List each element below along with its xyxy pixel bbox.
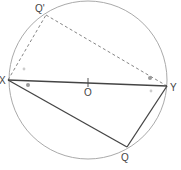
segment-q-y [127, 86, 167, 147]
label-x: X [0, 75, 6, 86]
segment-x-qprime [8, 15, 46, 80]
segment-qprime-y [46, 15, 167, 86]
diameter-xy [8, 80, 167, 86]
angle-mark-y-faint [150, 90, 153, 93]
angle-dot-y [148, 76, 152, 80]
label-q: Q [121, 152, 129, 163]
angle-dot-x [26, 83, 30, 87]
label-q-prime: Q' [35, 3, 45, 14]
angle-mark-x-faint [23, 68, 26, 71]
label-y: Y [170, 82, 177, 93]
circle-diagram: X Y Q Q' O [0, 0, 181, 170]
label-o: O [84, 87, 92, 98]
segment-x-q [8, 80, 127, 147]
